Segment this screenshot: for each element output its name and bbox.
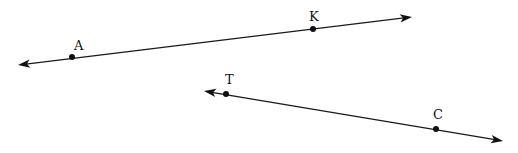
point-k [310,26,316,32]
point-label-a: A [73,38,84,53]
line-AK: AK [18,9,412,68]
point-label-t: T [225,72,234,87]
point-c [433,126,439,132]
line-TC: TC [204,72,503,143]
point-label-c: C [433,107,443,122]
point-label-k: K [309,9,319,24]
point-a [69,54,75,60]
line-segment [212,92,495,139]
point-t [223,91,229,97]
diagram-canvas: AKTC [0,0,518,153]
